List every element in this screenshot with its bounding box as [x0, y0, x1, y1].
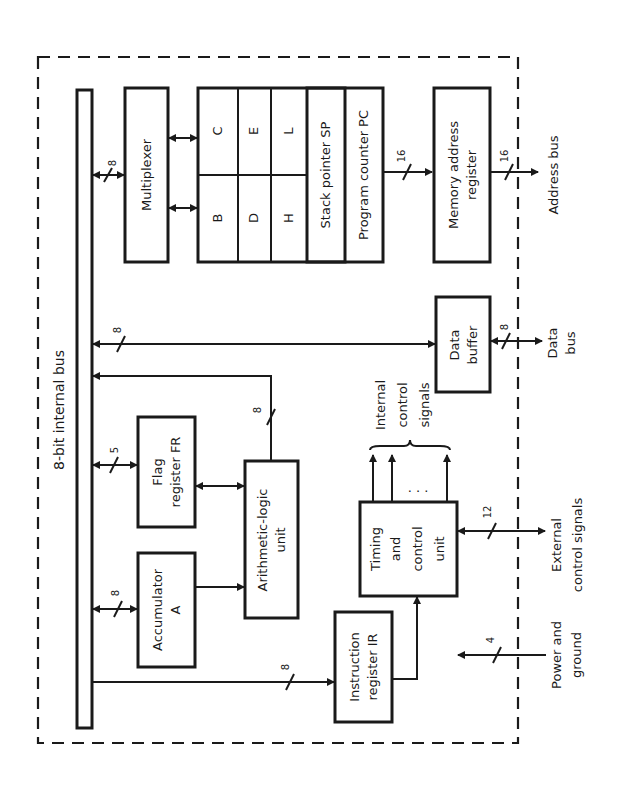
program-counter-label: Program counter PC [356, 110, 371, 240]
alu-label-line2: unit [273, 527, 288, 552]
timing-label-line3: control [410, 526, 425, 571]
width-power-ground: 4 [485, 637, 496, 643]
mar-label-line2: register [464, 149, 479, 200]
address-bus-label: Address bus [546, 135, 561, 214]
width-address-bus: 16 [499, 150, 510, 163]
ir-label-line1: Instruction [347, 632, 362, 702]
cpu-block-diagram: 8-bit internal bus Multiplexer 8 C B E D… [0, 0, 620, 798]
data-buffer-label-line1: Data [447, 329, 462, 360]
width-data-bus: 8 [499, 324, 510, 330]
stack-pointer-label: Stack pointer SP [318, 121, 333, 228]
internal-signals-brace [370, 440, 450, 450]
width-bus-mux: 8 [107, 160, 118, 166]
width-alu-bus: 8 [252, 407, 263, 413]
data-bus-label-line1: Data [545, 327, 560, 358]
internal-control-label-line2: control [395, 382, 410, 427]
flag-register-label-line1: Flag [150, 458, 165, 485]
internal-bus-bar [77, 90, 92, 728]
instruction-register-block: Instruction register IR [335, 612, 392, 722]
register-h: H [281, 213, 296, 223]
width-bus-accumulator: 8 [110, 590, 121, 596]
internal-signal-ellipsis: . . . [408, 480, 429, 495]
power-label-line2: ground [569, 632, 584, 678]
ir-label-line2: register IR [365, 633, 380, 700]
width-bus-data-buffer: 8 [112, 327, 123, 333]
power-label-line1: Power and [549, 621, 564, 689]
external-control-label-line1: External [549, 518, 564, 572]
flag-register-block: Flag register FR [138, 417, 195, 527]
data-bus-label-line2: bus [563, 331, 578, 354]
register-file: C B E D L H Stack pointer SP Program cou… [198, 88, 383, 262]
width-external-control: 12 [482, 506, 493, 519]
internal-control-label-line3: signals [417, 382, 432, 427]
register-b: B [210, 214, 225, 223]
alu-block: Arithmetic-logic unit [245, 461, 298, 618]
accumulator-block: Accumulator A [138, 553, 195, 667]
alu-label-line1: Arithmetic-logic [255, 489, 270, 592]
register-c: C [210, 126, 225, 135]
timing-control-block: Timing and control unit [360, 502, 457, 596]
mar-label-line1: Memory address [446, 121, 461, 229]
ir-timing-link [392, 597, 417, 679]
multiplexer-label: Multiplexer [139, 138, 154, 211]
timing-label-line1: Timing [368, 527, 383, 572]
timing-label-line2: and [388, 537, 403, 561]
data-buffer-label-line2: buffer [465, 325, 480, 364]
internal-control-label-line1: Internal [373, 380, 388, 430]
width-pc-mar: 16 [396, 150, 407, 163]
register-d: D [246, 213, 261, 223]
accumulator-label-line1: Accumulator [150, 568, 165, 651]
width-bus-flag: 5 [109, 447, 120, 453]
accumulator-label-line2: A [168, 605, 183, 614]
memory-address-register-block: Memory address register [434, 88, 490, 262]
width-bus-ir: 8 [280, 664, 291, 670]
multiplexer-block: Multiplexer [125, 88, 168, 262]
internal-bus-label: 8-bit internal bus [51, 350, 67, 470]
external-control-label-line2: control signals [570, 498, 585, 593]
timing-label-line4: unit [432, 536, 447, 561]
flag-register-label-line2: register FR [168, 437, 183, 508]
data-buffer-block: Data buffer [436, 297, 490, 392]
register-e: E [246, 127, 261, 135]
register-l: L [281, 127, 296, 135]
